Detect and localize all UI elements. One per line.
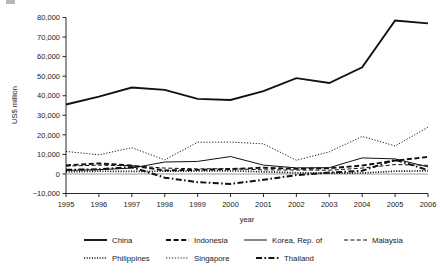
y-axis-tick-label: 70,000 <box>37 33 60 42</box>
series-line-singapore <box>66 127 428 160</box>
legend-label-indonesia: Indonesia <box>194 236 228 245</box>
series-line-philippines <box>66 171 428 173</box>
y-axis-tick-label: 40,000 <box>37 91 60 100</box>
x-axis-tick-label: 2004 <box>354 200 371 209</box>
y-axis-tick-label: 30,000 <box>37 111 60 120</box>
y-axis-tick-label: 60,000 <box>37 52 60 61</box>
legend-label-singapore: Singapore <box>194 254 230 263</box>
y-axis-tick-label: 80,000 <box>37 13 60 22</box>
x-axis-tick-label: 2001 <box>255 200 272 209</box>
chart-legend: ChinaIndonesiaKorea, Rep. ofMalaysiaPhil… <box>84 236 403 263</box>
data-series-group <box>66 20 428 183</box>
x-axis-title: year <box>240 215 255 224</box>
y-axis-tick-label: 20,000 <box>37 131 60 140</box>
y-axis-tick-label: 50,000 <box>37 72 60 81</box>
legend-label-philippines: Philippines <box>112 254 150 263</box>
x-axis-tick-label: 1995 <box>58 200 75 209</box>
x-axis-tick-label: 2000 <box>222 200 239 209</box>
x-axis-tick-label: 1997 <box>123 200 140 209</box>
series-line-china <box>66 20 428 104</box>
legend-label-korea-rep-of: Korea, Rep. of <box>272 236 323 245</box>
x-axis-tick-label: 1996 <box>91 200 108 209</box>
line-chart-plot: 80,00070,00060,00050,00040,00030,00020,0… <box>0 0 440 277</box>
x-axis-tick-label: 1999 <box>189 200 206 209</box>
legend-label-china: China <box>112 236 133 245</box>
x-axis-tick-label: 2006 <box>420 200 437 209</box>
chart-figure: 80,00070,00060,00050,00040,00030,00020,0… <box>0 0 440 277</box>
y-axis-tick-label: 10,000 <box>37 150 60 159</box>
y-axis-tick-label: 0 <box>56 170 60 179</box>
y-axis-tick-label: −10,000 <box>33 189 60 198</box>
x-axis-tick-group: 1995199619971998199920002001200220032004… <box>58 194 437 209</box>
legend-label-malaysia: Malaysia <box>372 236 403 245</box>
y-axis-tick-group: 80,00070,00060,00050,00040,00030,00020,0… <box>33 13 66 198</box>
legend-label-thailand: Thailand <box>284 254 314 263</box>
x-axis-tick-label: 2002 <box>288 200 305 209</box>
y-axis-title: US$ million <box>10 86 19 124</box>
x-axis-tick-label: 1998 <box>156 200 173 209</box>
x-axis-tick-label: 2005 <box>387 200 404 209</box>
x-axis-tick-label: 2003 <box>321 200 338 209</box>
